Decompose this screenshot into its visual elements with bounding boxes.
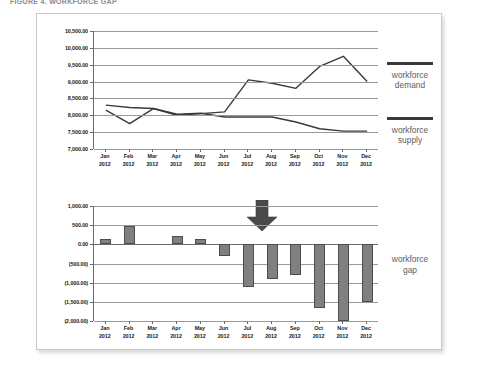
x-axis-tick-label-month: Nov [336, 153, 348, 161]
x-axis-tick-label-month: Aug [265, 153, 277, 161]
y-axis-tick-label: 9,000.00 [36, 79, 88, 85]
x-axis-tick-label-month: Nov [336, 325, 348, 333]
x-axis-tick-label-year: 2012 [289, 333, 301, 341]
x-axis-tick-label-year: 2012 [99, 333, 111, 341]
x-axis-tick-label-month: Mar [146, 325, 158, 333]
x-axis-tick-label-month: Oct [313, 153, 325, 161]
x-axis-tick-label-year: 2012 [265, 333, 277, 341]
x-axis-tick-label-year: 2012 [289, 161, 301, 169]
gridline [94, 302, 378, 303]
x-axis-tick-mark [247, 149, 248, 152]
x-axis-tick-label-month: Jul [241, 325, 253, 333]
x-axis-tick-mark [247, 321, 248, 324]
gridline [94, 82, 378, 83]
bar [338, 244, 349, 321]
x-axis-tick-label-year: 2012 [313, 333, 325, 341]
x-axis-tick-label-month: Aug [265, 325, 277, 333]
bar [124, 226, 135, 244]
x-axis-tick-label-month: Oct [313, 325, 325, 333]
x-axis-tick-label-year: 2012 [194, 161, 206, 169]
y-axis-tick-label: 8,500.00 [36, 95, 88, 101]
x-axis-tick-label: May2012 [194, 325, 206, 340]
line-chart-plot-area [93, 31, 378, 149]
gridline [94, 48, 378, 49]
x-axis-tick-mark [176, 149, 177, 152]
y-axis-tick-label: (1,500.00) [36, 299, 88, 305]
bar [314, 244, 325, 308]
x-axis-tick-label-year: 2012 [99, 161, 111, 169]
x-axis-tick-label: Dec2012 [360, 325, 372, 340]
bar-chart-x-axis: Jan2012Feb2012Mar2012Apr2012May2012Jun20… [93, 321, 378, 349]
x-axis-tick-mark [295, 321, 296, 324]
x-axis-tick-label: Oct2012 [313, 153, 325, 168]
x-axis-tick-label-month: Jan [99, 153, 111, 161]
x-axis-tick-mark [271, 149, 272, 152]
line-series-workforce-demand [106, 56, 367, 123]
x-axis-tick-mark [319, 321, 320, 324]
x-axis-tick-label-month: Apr [170, 153, 182, 161]
x-axis-tick-label-month: Jun [218, 325, 230, 333]
x-axis-tick-label-year: 2012 [146, 161, 158, 169]
x-axis-tick-label-year: 2012 [360, 161, 372, 169]
x-axis-tick-label-year: 2012 [336, 161, 348, 169]
x-axis-tick-label-year: 2012 [218, 161, 230, 169]
line-chart-x-axis: Jan2012Feb2012Mar2012Apr2012May2012Jun20… [93, 149, 378, 177]
legend-workforce-demand: workforce demand [377, 62, 443, 91]
x-axis-tick-label-year: 2012 [170, 333, 182, 341]
x-axis-tick-label-month: Dec [360, 153, 372, 161]
legend-workforce-gap: workforce gap [377, 254, 443, 275]
legend-demand-label-line1: workforce [377, 70, 443, 81]
x-axis-tick-label: Dec2012 [360, 153, 372, 168]
x-axis-tick-label-year: 2012 [241, 161, 253, 169]
x-axis-tick-label: Jul2012 [241, 153, 253, 168]
gridline [94, 65, 378, 66]
legend-gap-label-line1: workforce [377, 254, 443, 265]
y-axis-tick-label: 10,500.00 [36, 28, 88, 34]
x-axis-tick-label-month: Jul [241, 153, 253, 161]
figure-title: FIGURE 4. WORKFORCE GAP [10, 0, 117, 5]
x-axis-tick-label: Jun2012 [218, 153, 230, 168]
gridline [94, 206, 378, 207]
x-axis-tick-label-month: May [194, 325, 206, 333]
y-axis-tick-label: (1,000.00) [36, 280, 88, 286]
x-axis-tick-label-year: 2012 [241, 333, 253, 341]
x-axis-tick-label-year: 2012 [146, 333, 158, 341]
x-axis-tick-label-month: Feb [123, 325, 135, 333]
y-axis-tick-label: 1,000.00 [36, 203, 88, 209]
line-series-workforce-supply [106, 105, 367, 131]
bar-chart-y-axis: 1,000.00500.000.00(500.00)(1,000.00)(1,5… [37, 186, 93, 351]
x-axis-tick-label-year: 2012 [360, 333, 372, 341]
y-axis-tick-label: (500.00) [36, 261, 88, 267]
x-axis-tick-label-year: 2012 [336, 333, 348, 341]
x-axis-tick-label-year: 2012 [194, 333, 206, 341]
gridline [94, 132, 378, 133]
line-chart-y-axis: 10,500.0010,000.009,500.009,000.008,500.… [37, 14, 93, 184]
x-axis-tick-label: Nov2012 [336, 153, 348, 168]
x-axis-tick-mark [176, 321, 177, 324]
legend-gap-label-line2: gap [377, 265, 443, 276]
x-axis-tick-mark [129, 321, 130, 324]
y-axis-tick-label: 0.00 [36, 241, 88, 247]
x-axis-tick-label-month: Feb [123, 153, 135, 161]
legend-supply-line-swatch [387, 117, 433, 120]
bar [100, 239, 111, 245]
line-chart-panel: 10,500.0010,000.009,500.009,000.008,500.… [37, 14, 443, 184]
x-axis-tick-label: Aug2012 [265, 153, 277, 168]
x-axis-tick-label-month: Jun [218, 153, 230, 161]
y-axis-tick-label: 7,500.00 [36, 129, 88, 135]
x-axis-tick-label-month: Mar [146, 153, 158, 161]
x-axis-tick-label: Mar2012 [146, 153, 158, 168]
x-axis-tick-label: Feb2012 [123, 325, 135, 340]
bar [172, 236, 183, 245]
x-axis-tick-mark [224, 321, 225, 324]
bar [219, 244, 230, 256]
x-axis-tick-label-month: Dec [360, 325, 372, 333]
x-axis-tick-mark [342, 149, 343, 152]
x-axis-tick-label-month: Jan [99, 325, 111, 333]
legend-demand-line-swatch [387, 62, 433, 65]
y-axis-tick-label: 7,000.00 [36, 146, 88, 152]
x-axis-tick-mark [271, 321, 272, 324]
x-axis-tick-label: Oct2012 [313, 325, 325, 340]
legend-demand-label-line2: demand [377, 80, 443, 91]
gridline [94, 264, 378, 265]
